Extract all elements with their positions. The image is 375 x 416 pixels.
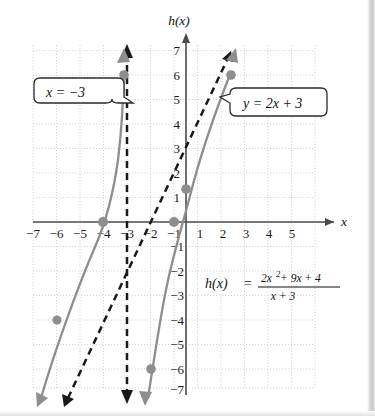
curve-point	[52, 315, 61, 324]
y-tick-label: −3	[170, 288, 184, 303]
callout-label: y = 2x + 3	[241, 96, 302, 111]
y-tick-label: −5	[170, 337, 184, 352]
formula-lhs: h(x)	[205, 276, 228, 292]
page-bottom-shadow	[0, 411, 375, 416]
x-tick-label: 4	[266, 226, 273, 241]
x-axis-arrowhead	[325, 218, 334, 226]
formula-numerator-a: 2x	[261, 272, 273, 284]
y-tick-label: 5	[174, 92, 181, 107]
page-edge-shadow	[367, 0, 375, 416]
y-tick-label: 4	[174, 117, 181, 132]
formula-numerator-b: + 9x + 4	[280, 272, 321, 284]
graph-figure: h(x) x −7 −6 −5 −4 −3 −2 −1 1 2 3 4 5 7 …	[0, 0, 375, 416]
y-axis-arrowhead	[182, 33, 190, 43]
x-tick-labels: −7 −6 −5 −4 −3 −2 −1 1 2 3 4 5	[26, 226, 295, 241]
x-tick-label: 1	[197, 226, 204, 241]
coordinate-plane: h(x) x −7 −6 −5 −4 −3 −2 −1 1 2 3 4 5 7 …	[0, 0, 375, 416]
function-formula: h(x) = 2x 2 + 9x + 4 x + 3	[205, 269, 340, 302]
curve-point	[226, 70, 236, 80]
callout-label: x = −3	[45, 85, 85, 100]
x-tick-label: 3	[243, 226, 250, 241]
x-tick-label: 2	[220, 226, 227, 241]
y-tick-label: 7	[174, 43, 181, 58]
callout-slant-asymptote[interactable]: y = 2x + 3	[220, 88, 327, 116]
curve-point	[169, 217, 179, 227]
y-tick-label: −7	[170, 382, 184, 397]
x-axis-title: x	[340, 214, 347, 229]
y-axis-title: h(x)	[168, 13, 190, 28]
x-tick-label: −6	[50, 226, 64, 241]
x-tick-label: −7	[26, 226, 40, 241]
y-tick-label: 6	[174, 68, 181, 83]
y-tick-label: −6	[170, 362, 184, 377]
y-tick-label: 1	[174, 190, 181, 205]
curve-right-arrowhead-down	[139, 391, 152, 406]
vertical-asymptote-arrowhead-down	[121, 390, 133, 404]
y-tick-label: 3	[174, 141, 181, 156]
callout-vertical-asymptote[interactable]: x = −3	[34, 78, 133, 103]
curve-point	[98, 217, 108, 227]
y-tick-label: −4	[170, 313, 184, 328]
formula-equals: =	[243, 276, 252, 291]
x-tick-label: −5	[73, 226, 87, 241]
slant-asymptote-line	[62, 51, 233, 407]
formula-denominator: x + 3	[270, 290, 296, 302]
curve-point	[181, 184, 191, 194]
x-tick-label: 5	[289, 226, 296, 241]
curve-point	[146, 364, 156, 374]
